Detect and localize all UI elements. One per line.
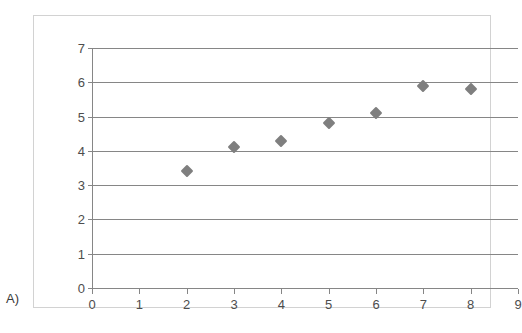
x-tick-3 bbox=[234, 289, 235, 294]
x-tick-label-4: 4 bbox=[278, 298, 285, 311]
panel-letter-label: A) bbox=[6, 292, 19, 305]
x-tick-4 bbox=[281, 289, 282, 294]
x-tick-0 bbox=[92, 289, 93, 294]
x-tick-label-5: 5 bbox=[325, 298, 332, 311]
x-tick-label-8: 8 bbox=[467, 298, 474, 311]
data-point bbox=[275, 134, 288, 147]
data-point bbox=[180, 165, 193, 178]
x-tick-9 bbox=[518, 289, 519, 294]
y-tick-7 bbox=[88, 48, 93, 49]
data-point bbox=[464, 83, 477, 96]
gridline-y-6 bbox=[92, 82, 518, 83]
y-tick-label-1: 1 bbox=[78, 247, 85, 260]
x-tick-label-3: 3 bbox=[230, 298, 237, 311]
x-tick-label-9: 9 bbox=[514, 298, 521, 311]
x-tick-label-0: 0 bbox=[88, 298, 95, 311]
y-tick-label-2: 2 bbox=[78, 213, 85, 226]
y-tick-label-6: 6 bbox=[78, 76, 85, 89]
x-tick-label-6: 6 bbox=[372, 298, 379, 311]
y-tick-6 bbox=[88, 82, 93, 83]
x-tick-8 bbox=[471, 289, 472, 294]
gridline-y-2 bbox=[92, 219, 518, 220]
y-tick-label-0: 0 bbox=[78, 282, 85, 295]
x-tick-label-7: 7 bbox=[420, 298, 427, 311]
x-tick-2 bbox=[187, 289, 188, 294]
data-point bbox=[370, 107, 383, 120]
gridline-y-5 bbox=[92, 117, 518, 118]
y-tick-3 bbox=[88, 185, 93, 186]
x-tick-5 bbox=[329, 289, 330, 294]
y-tick-label-4: 4 bbox=[78, 144, 85, 157]
chart-frame: 01234567 0123456789 bbox=[33, 15, 491, 308]
x-tick-label-2: 2 bbox=[183, 298, 190, 311]
x-axis-line bbox=[92, 288, 518, 289]
data-point bbox=[228, 141, 241, 154]
plot-area: 01234567 0123456789 bbox=[92, 48, 518, 288]
x-tick-label-1: 1 bbox=[136, 298, 143, 311]
y-tick-5 bbox=[88, 117, 93, 118]
gridline-y-1 bbox=[92, 254, 518, 255]
gridline-y-4 bbox=[92, 151, 518, 152]
gridline-y-3 bbox=[92, 185, 518, 186]
data-point bbox=[322, 117, 335, 130]
y-tick-label-7: 7 bbox=[78, 42, 85, 55]
y-tick-2 bbox=[88, 219, 93, 220]
data-point bbox=[417, 79, 430, 92]
y-tick-4 bbox=[88, 151, 93, 152]
x-tick-7 bbox=[423, 289, 424, 294]
y-tick-label-5: 5 bbox=[78, 110, 85, 123]
y-tick-label-3: 3 bbox=[78, 179, 85, 192]
x-tick-1 bbox=[139, 289, 140, 294]
gridline-y-7 bbox=[92, 48, 518, 49]
y-tick-1 bbox=[88, 254, 93, 255]
x-tick-6 bbox=[376, 289, 377, 294]
